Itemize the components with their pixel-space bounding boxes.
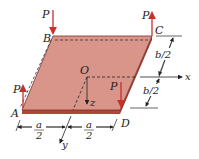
label-corner-A: A	[10, 107, 19, 120]
label-corner-D: D	[120, 117, 130, 130]
label-a-left-num: a	[36, 119, 42, 130]
label-origin-O: O	[80, 64, 89, 77]
label-a-left-den: 2	[35, 130, 42, 141]
label-b-top: b/2	[155, 49, 171, 60]
plate-front-edge	[22, 110, 120, 114]
label-P-B: P	[41, 8, 50, 21]
label-z-axis: z	[89, 97, 96, 108]
label-corner-B: B	[42, 32, 51, 45]
label-a-right-den: 2	[85, 130, 92, 141]
label-x-axis: x	[185, 71, 191, 82]
label-P-A: P	[12, 83, 21, 96]
label-a-right-num: a	[86, 119, 92, 130]
label-P-C: P	[141, 9, 150, 22]
label-y-axis: y	[61, 139, 68, 150]
plate-diagram: P P P P B C A D O x z y a 2 a 2 b/2 b/2	[0, 0, 199, 159]
label-P-D: P	[109, 80, 118, 93]
label-b-bottom: b/2	[143, 85, 159, 96]
label-corner-C: C	[155, 24, 164, 37]
